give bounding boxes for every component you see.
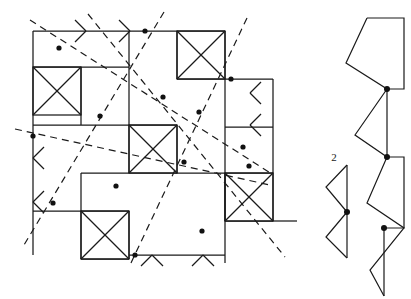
zigzag-polygon-group xyxy=(346,18,404,296)
vertex-dot xyxy=(344,209,350,215)
vertex-dot xyxy=(196,109,201,114)
arrowhead-barb xyxy=(250,114,261,125)
arrowhead-barb xyxy=(192,255,203,266)
dashed-line-group xyxy=(15,12,285,265)
vertex-dot xyxy=(246,163,251,168)
dashed-3 xyxy=(24,12,164,245)
vertex-dot xyxy=(132,252,137,257)
bowtie-upper-triangle xyxy=(326,165,347,212)
bowtie-lower-triangle xyxy=(326,212,347,258)
arrowhead-barb xyxy=(141,255,152,266)
vertex-dot xyxy=(56,45,61,50)
arrow-bottom-1 xyxy=(141,255,163,266)
arrow-right-1 xyxy=(250,82,261,104)
arrow-left-2 xyxy=(33,191,44,213)
arrowhead-barb xyxy=(250,93,261,104)
label-group: 2 xyxy=(331,151,337,163)
orthogonal-segment-group xyxy=(33,31,297,263)
arrowhead-barb xyxy=(119,31,130,42)
vertex-dot xyxy=(142,28,147,33)
arrowhead-barb xyxy=(33,191,44,202)
arrowhead-barb xyxy=(152,255,163,266)
label-2: 2 xyxy=(331,151,337,163)
vertex-dot xyxy=(30,133,35,138)
vertex-dot xyxy=(381,225,387,231)
arrow-left-1 xyxy=(33,147,44,169)
arrowhead-barb xyxy=(75,20,86,31)
arrow-bottom-2 xyxy=(192,255,214,266)
vertex-dot-group xyxy=(30,28,390,257)
geometric-diagram-svg: 2 xyxy=(0,0,411,299)
arrowhead-barb xyxy=(203,255,214,266)
vertex-dot xyxy=(240,144,245,149)
vertex-dot xyxy=(50,200,55,205)
dashed-4 xyxy=(15,129,270,185)
vertex-dot xyxy=(199,228,204,233)
dashed-2 xyxy=(88,14,285,257)
arrowhead-barb xyxy=(33,158,44,169)
vertex-dot xyxy=(113,183,118,188)
dashed-5 xyxy=(130,18,247,265)
vertex-dot xyxy=(160,94,165,99)
vertex-dot xyxy=(97,113,102,118)
x-crossed-cell-group xyxy=(33,31,273,259)
vertex-dot xyxy=(181,159,186,164)
arrowhead-barb xyxy=(250,82,261,93)
vertex-dot xyxy=(384,154,390,160)
vertex-dot xyxy=(228,76,233,81)
arrowhead-barb xyxy=(33,147,44,158)
figure-root: 2 xyxy=(0,0,411,299)
bowtie-shape-group xyxy=(326,165,347,258)
arrowhead-barb xyxy=(119,20,130,31)
vertex-dot xyxy=(384,86,390,92)
arrowhead-barb xyxy=(75,31,86,42)
arrow-right-2 xyxy=(250,114,261,136)
